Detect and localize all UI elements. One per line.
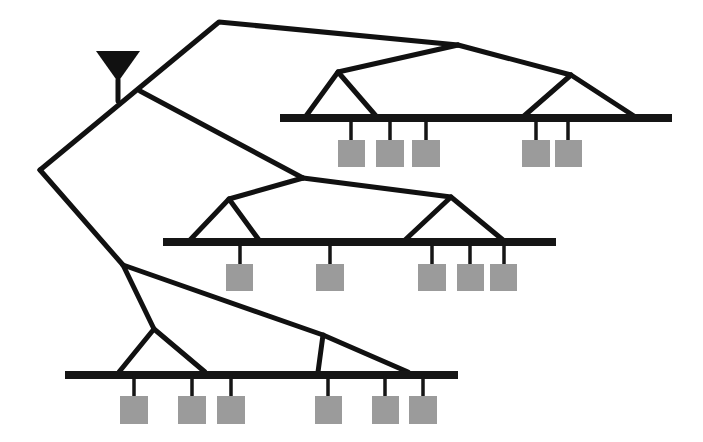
- leaf-node: [376, 140, 404, 167]
- top-subtree: [280, 45, 672, 167]
- leaf-node: [316, 264, 344, 291]
- leaf-node: [409, 396, 437, 424]
- leaf-node: [490, 264, 517, 291]
- leaf-node: [412, 140, 440, 167]
- bottom-subtree: [65, 265, 458, 424]
- leaf-node: [555, 140, 582, 167]
- leaf-node: [120, 396, 148, 424]
- leaf-node: [457, 264, 484, 291]
- leaf-node: [226, 264, 253, 291]
- leaf-node: [178, 396, 206, 424]
- leaf-node: [217, 396, 245, 424]
- top-leaves: [338, 118, 582, 167]
- network-tree-diagram: [0, 0, 703, 442]
- bottom-leaves: [120, 375, 437, 424]
- middle-subtree: [163, 178, 556, 291]
- leaf-node: [372, 396, 399, 424]
- leaf-node: [522, 140, 550, 167]
- leaf-node: [338, 140, 365, 167]
- middle-leaves: [226, 242, 517, 291]
- leaf-node: [418, 264, 446, 291]
- leaf-node: [315, 396, 342, 424]
